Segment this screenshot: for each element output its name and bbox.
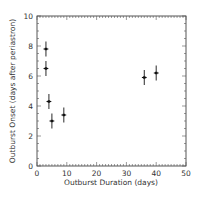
data-point [142, 70, 147, 85]
point-marker [45, 67, 47, 69]
x-tick-label: 0 [35, 169, 40, 178]
y-tick-label: 8 [28, 42, 33, 51]
point-marker [51, 120, 53, 122]
y-tick-label: 10 [23, 12, 33, 21]
x-tick-label: 30 [122, 169, 132, 178]
point-marker [63, 114, 65, 116]
y-tick-label: 2 [28, 132, 33, 141]
y-tick-label: 4 [28, 102, 33, 111]
point-marker [155, 72, 157, 74]
x-tick-labels: 01020304050 [35, 169, 191, 178]
x-axis-label: Outburst Duration (days) [64, 178, 158, 187]
data-point [154, 66, 159, 81]
point-marker [45, 48, 47, 50]
plot-frame [37, 16, 186, 166]
axis-ticks [37, 16, 186, 166]
y-tick-label: 0 [28, 162, 33, 171]
point-marker [143, 76, 145, 78]
x-tick-label: 50 [181, 169, 191, 178]
data-point [61, 108, 66, 123]
point-marker [48, 100, 50, 102]
x-tick-label: 40 [151, 169, 161, 178]
scatter-chart: 01020304050 0246810 Outburst Duration (d… [0, 0, 197, 197]
x-tick-label: 20 [92, 169, 102, 178]
data-point [50, 114, 55, 129]
x-tick-label: 10 [62, 169, 72, 178]
data-points [44, 42, 159, 129]
y-tick-labels: 0246810 [23, 12, 33, 171]
y-tick-label: 6 [28, 72, 33, 81]
data-point [44, 42, 49, 57]
data-point [47, 94, 52, 109]
y-axis-label: Outburst Onset (days after periastron) [8, 19, 17, 163]
data-point [44, 61, 49, 76]
plot-border [37, 16, 186, 166]
